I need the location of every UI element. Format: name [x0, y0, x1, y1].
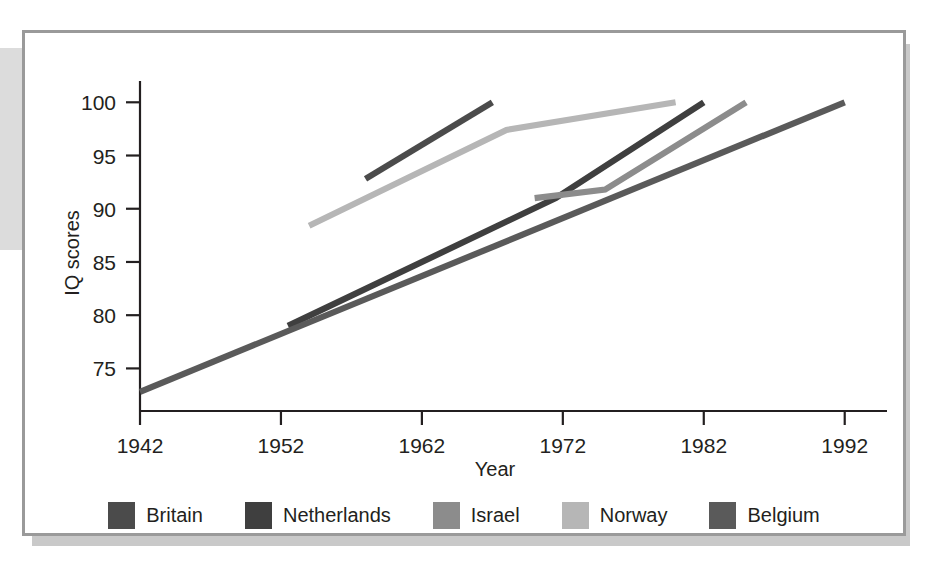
- legend-item-belgium[interactable]: Belgium: [709, 502, 819, 529]
- iq-scores-line-chart: 7580859095100 194219521962197219821992 I…: [25, 33, 909, 539]
- y-tick-label: 85: [93, 251, 116, 274]
- y-tick-label: 80: [93, 304, 116, 327]
- series-line-belgium: [140, 102, 845, 392]
- y-tick-label: 75: [93, 357, 116, 380]
- x-tick-label: 1992: [821, 434, 868, 457]
- legend-item-britain[interactable]: Britain: [108, 502, 203, 529]
- y-axis-title: IQ scores: [61, 210, 83, 296]
- legend-item-norway[interactable]: Norway: [562, 502, 668, 529]
- legend-item-israel[interactable]: Israel: [433, 502, 520, 529]
- legend-label: Israel: [471, 504, 520, 527]
- legend-label: Netherlands: [283, 504, 391, 527]
- series-line-norway: [309, 102, 675, 225]
- legend-label: Belgium: [747, 504, 819, 527]
- legend-swatch-britain: [108, 502, 135, 529]
- x-tick-label: 1942: [117, 434, 164, 457]
- y-tick-label: 95: [93, 145, 116, 168]
- legend-swatch-belgium: [709, 502, 736, 529]
- legend-swatch-netherlands: [245, 502, 272, 529]
- x-tick-label: 1962: [399, 434, 446, 457]
- chart-plot-area: 7580859095100 194219521962197219821992 I…: [25, 33, 909, 539]
- x-tick-label: 1952: [258, 434, 305, 457]
- legend-swatch-israel: [433, 502, 460, 529]
- legend-item-netherlands[interactable]: Netherlands: [245, 502, 391, 529]
- x-tick-label: 1982: [680, 434, 727, 457]
- x-axis-title: Year: [475, 458, 516, 480]
- chart-series-group: [140, 102, 845, 392]
- y-tick-label: 100: [81, 91, 116, 114]
- legend-swatch-norway: [562, 502, 589, 529]
- y-tick-label: 90: [93, 198, 116, 221]
- legend-label: Norway: [600, 504, 668, 527]
- legend-label: Britain: [146, 504, 203, 527]
- x-tick-label: 1972: [539, 434, 586, 457]
- y-axis-ticks: 7580859095100: [81, 91, 140, 380]
- figure-frame: 7580859095100 194219521962197219821992 I…: [22, 30, 906, 536]
- x-axis-ticks: 194219521962197219821992: [117, 411, 868, 457]
- chart-legend: BritainNetherlandsIsraelNorwayBelgium: [25, 495, 903, 535]
